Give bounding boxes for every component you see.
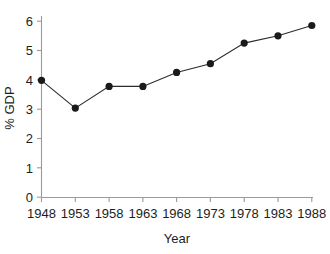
x-axis-tick-labels: 1948 1953 1958 1963 1968 1973 1978 1983 … <box>27 206 326 221</box>
data-point-1953 <box>72 105 79 112</box>
x-tick-label-1973: 1973 <box>196 206 225 221</box>
y-tick-label-2: 2 <box>26 131 33 146</box>
y-tick-label-5: 5 <box>26 43 33 58</box>
x-tick-label-1968: 1968 <box>162 206 191 221</box>
data-point-1948 <box>38 77 45 84</box>
data-markers <box>38 22 316 112</box>
data-point-1958 <box>106 83 113 90</box>
y-tick-label-1: 1 <box>26 161 33 176</box>
x-tick-label-1953: 1953 <box>61 206 90 221</box>
x-axis-title: Year <box>164 231 191 246</box>
x-axis-ticks <box>42 198 312 203</box>
x-tick-label-1958: 1958 <box>95 206 124 221</box>
x-tick-label-1983: 1983 <box>264 206 293 221</box>
data-point-1988 <box>308 22 315 29</box>
data-point-1963 <box>139 83 146 90</box>
axis-lines <box>42 16 314 198</box>
data-point-1968 <box>173 69 180 76</box>
y-tick-label-6: 6 <box>26 14 33 29</box>
x-tick-label-1978: 1978 <box>230 206 259 221</box>
y-tick-label-3: 3 <box>26 102 33 117</box>
data-point-1973 <box>207 60 214 67</box>
data-series-line <box>42 26 312 109</box>
y-axis-title: % GDP <box>2 86 17 129</box>
chart-figure: 6 5 4 3 2 1 0 1948 1953 1958 1963 1968 <box>0 0 330 254</box>
y-axis-tick-labels: 6 5 4 3 2 1 0 <box>26 14 33 205</box>
x-tick-label-1948: 1948 <box>27 206 56 221</box>
y-axis-ticks <box>37 21 42 197</box>
x-tick-label-1963: 1963 <box>128 206 157 221</box>
x-tick-label-1988: 1988 <box>297 206 326 221</box>
line-chart: 6 5 4 3 2 1 0 1948 1953 1958 1963 1968 <box>0 0 330 254</box>
data-point-1978 <box>241 40 248 47</box>
y-tick-label-0: 0 <box>26 190 33 205</box>
data-point-1983 <box>274 32 281 39</box>
y-tick-label-4: 4 <box>26 73 33 88</box>
